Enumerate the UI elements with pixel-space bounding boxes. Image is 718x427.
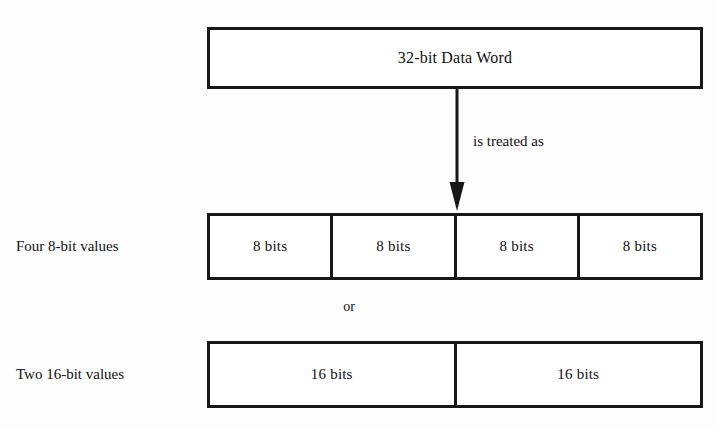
halfword-cell-label: 16 bits xyxy=(557,367,599,382)
byte-cell: 8 bits xyxy=(330,216,453,277)
row-caption-two-16bit: Two 16-bit values xyxy=(16,367,124,382)
or-connector: or xyxy=(0,300,718,314)
byte-cell-label: 8 bits xyxy=(623,239,657,254)
arrow-caption-label: is treated as xyxy=(473,134,544,149)
byte-cell-label: 8 bits xyxy=(500,239,534,254)
byte-cell: 8 bits xyxy=(210,216,330,277)
byte-cell: 8 bits xyxy=(454,216,577,277)
sixteen-bit-values-row: 16 bits 16 bits xyxy=(207,341,703,408)
byte-cell-label: 8 bits xyxy=(376,239,410,254)
row-caption-four-8bit: Four 8-bit values xyxy=(16,239,119,254)
word32-cell: 32-bit Data Word xyxy=(210,30,700,86)
eight-bit-values-row: 8 bits 8 bits 8 bits 8 bits xyxy=(207,213,703,280)
byte-cell: 8 bits xyxy=(577,216,700,277)
down-arrow-icon xyxy=(438,88,478,213)
halfword-cell: 16 bits xyxy=(210,344,454,405)
word32-box: 32-bit Data Word xyxy=(207,27,703,89)
word32-label: 32-bit Data Word xyxy=(398,50,512,66)
halfword-cell-label: 16 bits xyxy=(311,367,353,382)
byte-cell-label: 8 bits xyxy=(253,239,287,254)
or-label: or xyxy=(343,299,355,314)
data-word-diagram: 32-bit Data Word is treated as Four 8-bi… xyxy=(0,0,718,427)
halfword-cell: 16 bits xyxy=(454,344,701,405)
